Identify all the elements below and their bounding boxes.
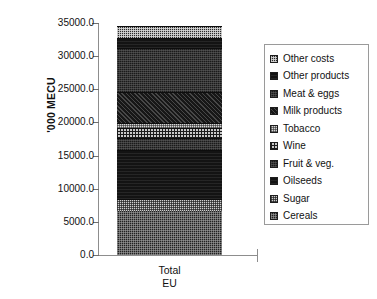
legend-item[interactable]: Meat & eggs [270, 85, 368, 103]
legend-swatch-icon [270, 107, 278, 115]
bar-segment-wine[interactable] [117, 128, 222, 137]
legend-item[interactable]: Other costs [270, 50, 368, 68]
x-axis-endcap [257, 249, 258, 262]
legend: Other costsOther productsMeat & eggsMilk… [264, 44, 369, 225]
y-axis-tick-label: 5000.0 [30, 217, 94, 227]
y-axis-tick-label: 20000.0 [30, 117, 94, 127]
bar-segment-fruit-veg[interactable] [117, 138, 222, 151]
legend-item[interactable]: Sugar [270, 190, 368, 208]
legend-item[interactable]: Cereals [270, 208, 368, 226]
legend-label: Wine [283, 141, 306, 151]
bar-segment-other-costs[interactable] [117, 26, 222, 37]
legend-swatch-icon [270, 177, 278, 185]
legend-label: Fruit & veg. [283, 159, 334, 169]
legend-item[interactable]: Wine [270, 138, 368, 156]
x-axis-category-label-line1: Total [117, 264, 222, 277]
legend-item[interactable]: Oilseeds [270, 173, 368, 191]
stacked-bar-chart: '000 MECU 0.05000.010000.015000.020000.0… [0, 0, 377, 299]
legend-item[interactable]: Tobacco [270, 120, 368, 138]
legend-label: Other products [283, 71, 349, 81]
legend-swatch-icon [270, 125, 278, 133]
legend-label: Sugar [283, 194, 310, 204]
legend-swatch-icon [270, 195, 278, 203]
bar-segment-meat-eggs[interactable] [117, 48, 222, 92]
legend-swatch-icon [270, 90, 278, 98]
legend-swatch-icon [270, 72, 278, 80]
legend-label: Other costs [283, 54, 334, 64]
legend-swatch-icon [270, 160, 278, 168]
x-axis-line [98, 255, 258, 256]
legend-label: Oilseeds [283, 176, 322, 186]
legend-label: Tobacco [283, 124, 320, 134]
bar-segment-cereals[interactable] [117, 211, 222, 255]
legend-item[interactable]: Milk products [270, 103, 368, 121]
y-axis-tick-label: 35000.0 [30, 18, 94, 28]
legend-label: Meat & eggs [283, 89, 339, 99]
legend-item[interactable]: Other products [270, 68, 368, 86]
legend-swatch-icon [270, 212, 278, 220]
y-axis-tick-label: 0.0 [30, 250, 94, 260]
bar-segment-other-products[interactable] [117, 38, 222, 49]
legend-swatch-icon [270, 55, 278, 63]
y-axis-tick-label: 30000.0 [30, 51, 94, 61]
bar-segment-milk-products[interactable] [117, 92, 222, 123]
bar-segment-sugar[interactable] [117, 199, 222, 210]
y-axis-tick-label: 10000.0 [30, 184, 94, 194]
bar-segment-tobacco[interactable] [117, 123, 222, 128]
bar-segment-oilseeds[interactable] [117, 150, 222, 199]
x-axis-category-label-line2: EU [117, 277, 222, 290]
bar-total-eu[interactable] [117, 23, 222, 255]
legend-label: Cereals [283, 211, 317, 221]
y-axis-tick-label: 15000.0 [30, 151, 94, 161]
legend-swatch-icon [270, 142, 278, 150]
legend-item[interactable]: Fruit & veg. [270, 155, 368, 173]
y-axis-tick-label: 25000.0 [30, 84, 94, 94]
legend-label: Milk products [283, 106, 342, 116]
